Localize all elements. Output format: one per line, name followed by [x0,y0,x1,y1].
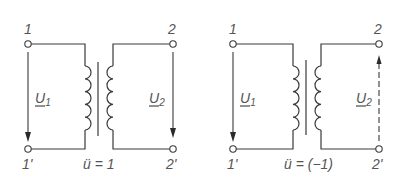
primary-coil-icon [293,66,299,130]
terminal-2 [170,41,176,47]
u2-arrowhead-icon [170,128,176,138]
label-terminal-1: 1 [24,21,32,37]
secondary-top-wire [113,44,170,66]
terminal-1-prime [230,146,236,152]
label-terminal-2: 2 [167,21,176,37]
secondary-coil-icon [315,66,321,130]
u1-arrowhead-icon [25,132,31,142]
primary-coil-icon [85,66,91,130]
terminal-1 [25,41,31,47]
label-u1: U1 [35,90,51,108]
u1-arrowhead-icon [230,132,236,142]
secondary-bottom-wire [113,130,170,149]
transformer-diagram-2: 1 1' 2 2' U1 U2 ü = (−1) [227,21,384,172]
ratio-label: ü = 1 [83,156,115,172]
label-u1: U1 [240,90,256,108]
label-terminal-2-prime: 2' [165,156,178,172]
terminal-1 [230,41,236,47]
label-terminal-1-prime: 1' [227,156,239,172]
label-u2: U2 [149,90,165,108]
label-u2: U2 [356,90,372,108]
secondary-bottom-wire [321,130,376,149]
terminal-2 [376,41,382,47]
terminal-1-prime [25,146,31,152]
u2-arrowhead-icon [377,55,382,64]
transformer-diagram-1: 1 1' 2 2' U1 U2 ü = 1 [22,21,178,172]
primary-top-wire [31,44,85,66]
primary-bottom-wire [236,130,293,149]
primary-top-wire [236,44,293,66]
label-terminal-2: 2 [373,21,382,37]
ratio-label: ü = (−1) [284,156,333,172]
terminal-2-prime [170,146,176,152]
transformer-diagrams: 1 1' 2 2' U1 U2 ü = 1 1 1' 2 2' U1 U2 [0,0,411,182]
label-terminal-1-prime: 1' [22,156,34,172]
primary-bottom-wire [31,130,85,149]
label-terminal-1: 1 [229,21,237,37]
secondary-coil-icon [107,66,113,130]
secondary-top-wire [321,44,376,66]
terminal-2-prime [376,146,382,152]
label-terminal-2-prime: 2' [371,156,384,172]
